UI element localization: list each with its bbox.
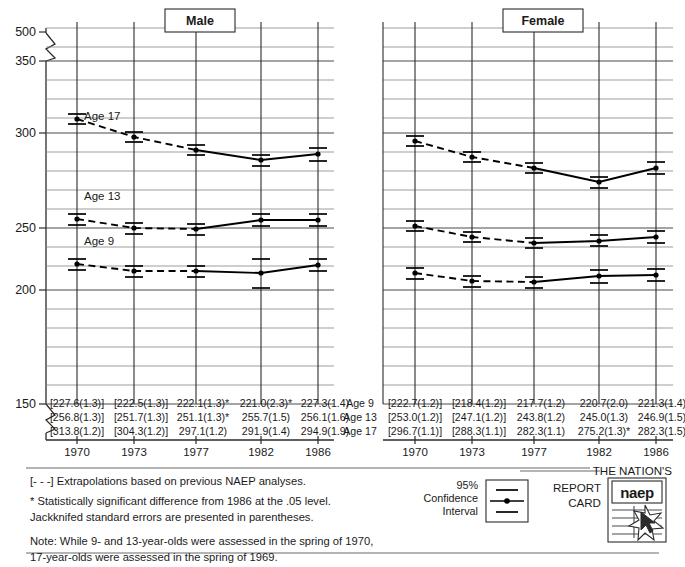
female-cell-age9-1973: [218.4(1.2)] (452, 397, 506, 409)
female-cell-age17-1977: 282.3(1.1) (517, 425, 565, 437)
female-gridlines-minor (383, 28, 673, 385)
y-tick-500: 500 (15, 25, 36, 39)
female-cell-age17-1970: [296.7(1.1)] (388, 425, 442, 437)
female-cell-age13-1982: 245.0(1.3) (580, 411, 628, 423)
panel-female: Female (383, 9, 673, 404)
male-cell-age9-1986: 227.3(1.4) (301, 397, 349, 409)
brand-line-card: CARD (568, 496, 601, 509)
naep-logo: naep (608, 478, 666, 542)
nations-report-card-brand: THE NATION'S REPORT CARD naep (520, 464, 672, 542)
male-x-tick-1986: 1986 (305, 446, 331, 458)
male-x-tick-1977: 1977 (183, 446, 209, 458)
female-age17-errorbars (406, 136, 665, 188)
female-age13-points (412, 223, 658, 245)
naep-wordmark: naep (620, 484, 654, 501)
male-cell-age13-1973: [251.7(1.3)] (114, 411, 168, 423)
female-panel-title: Female (521, 14, 564, 28)
y-tick-200: 200 (15, 283, 36, 297)
male-cell-age9-1977: 222.1(1.3)* (177, 397, 229, 409)
female-x-tick-1982: 1982 (586, 446, 612, 458)
y-tick-350: 350 (15, 54, 36, 68)
female-cell-age9-1986: 221.3(1.4) (638, 397, 685, 409)
female-cell-age13-1973: [247.1(1.2)] (452, 411, 506, 423)
male-x-tick-1970: 1970 (64, 446, 90, 458)
female-x-tick-1970: 1970 (402, 446, 428, 458)
row-label-age9: Age 9 (346, 397, 374, 409)
male-cell-age17-1973: [304.3(1.2)] (114, 425, 168, 437)
female-gridlines-major (383, 61, 673, 404)
female-cell-age13-1986: 246.9(1.5) (638, 411, 685, 423)
male-cell-age9-1973: [222.5(1.3)] (114, 397, 168, 409)
female-cell-age13-1977: 243.8(1.2) (517, 411, 565, 423)
female-series-group (406, 136, 665, 288)
female-cell-age17-1982: 275.2(1.3)* (578, 425, 630, 437)
male-cell-age13-1977: 251.1(1.3)* (177, 411, 229, 423)
male-x-axis: 1970 1973 1977 1982 1986 (46, 436, 334, 458)
male-cell-age9-1982: 221.0(2.3)* (240, 397, 292, 409)
female-cell-age13-1970: [253.0(1.2)] (388, 411, 442, 423)
y-tick-250: 250 (15, 221, 36, 235)
male-cell-age9-1970: [227.6(1.3)] (50, 397, 104, 409)
note-jackknife: Jackknifed standard errors are presented… (30, 510, 460, 525)
male-label-age9: Age 9 (84, 235, 114, 247)
figure-root: 500 350 300 250 200 150 (0, 0, 685, 567)
male-label-age17: Age 17 (84, 110, 120, 122)
male-cell-age13-1970: [256.8(1.3)] (50, 411, 104, 423)
male-age17-extrapolated-line (77, 119, 196, 150)
female-age9-line (534, 275, 656, 282)
row-label-age17: Age 17 (343, 425, 377, 437)
male-panel-title: Male (186, 14, 214, 28)
male-cell-age13-1986: 256.1(1.6) (301, 411, 349, 423)
male-gridlines-minor (46, 28, 334, 385)
female-data-table: [222.7(1.2)] [218.4(1.2)] 217.7(1.2) 220… (388, 397, 685, 437)
y-tickmarks (39, 32, 46, 404)
male-cell-age17-1970: [313.8(1.2)] (50, 425, 104, 437)
male-cell-age17-1977: 297.1(1.2) (179, 425, 227, 437)
brand-line-report: REPORT (553, 481, 601, 494)
y-tick-150: 150 (15, 397, 36, 411)
female-cell-age9-1982: 220.7(2.0) (580, 397, 628, 409)
female-cell-age17-1973: [288.3(1.1)] (452, 425, 506, 437)
male-x-tick-1982: 1982 (248, 446, 274, 458)
male-cell-age13-1982: 255.7(1.5) (242, 411, 290, 423)
note-significance: * Statistically significant difference f… (30, 494, 460, 509)
male-age13-errorbars (68, 214, 327, 235)
male-age9-extrapolated-line (77, 264, 196, 271)
female-x-tick-1977: 1977 (521, 446, 547, 458)
male-age9-errorbars (68, 259, 327, 288)
y-axis-labels: 500 350 300 250 200 150 (15, 25, 36, 411)
female-age13-line (534, 237, 656, 243)
female-age17-extrapolated-line (415, 141, 534, 168)
female-age17-points (412, 138, 658, 184)
table-row-labels: Age 9 Age 13 Age 17 (343, 397, 377, 437)
y-axis-spine (46, 28, 55, 440)
footnotes-block: [- - -] Extrapolations based on previous… (30, 474, 460, 565)
female-x-tick-1973: 1973 (459, 446, 485, 458)
female-age9-errorbars (406, 268, 665, 288)
row-label-age13: Age 13 (343, 411, 377, 423)
male-x-tick-1973: 1973 (121, 446, 147, 458)
note-assessment-line1: Note: While 9- and 13-year-olds were ass… (30, 534, 460, 549)
note-assessment-line2: 17-year-olds were assessed in the spring… (30, 550, 460, 565)
male-cell-age17-1986: 294.9(1.9) (301, 425, 349, 437)
male-cell-age17-1982: 291.9(1.4) (242, 425, 290, 437)
brand-line-nations: THE NATION'S (593, 464, 673, 477)
male-data-table: [227.6(1.3)] [222.5(1.3)] 222.1(1.3)* 22… (50, 397, 349, 437)
female-cell-age17-1986: 282.3(1.5) (638, 425, 685, 437)
male-label-age13: Age 13 (84, 190, 120, 202)
legend-point-marker (504, 498, 510, 504)
female-x-axis: 1970 1973 1977 1982 1986 (383, 436, 673, 458)
female-cell-age9-1970: [222.7(1.2)] (388, 397, 442, 409)
female-age17-line (534, 168, 656, 182)
panel-male: Age 17 Age 13 Age 9 Male (46, 9, 334, 404)
note-extrapolation: [- - -] Extrapolations based on previous… (30, 474, 460, 489)
y-tick-300: 300 (15, 126, 36, 140)
female-x-tick-1986: 1986 (643, 446, 669, 458)
female-cell-age9-1977: 217.7(1.2) (517, 397, 565, 409)
